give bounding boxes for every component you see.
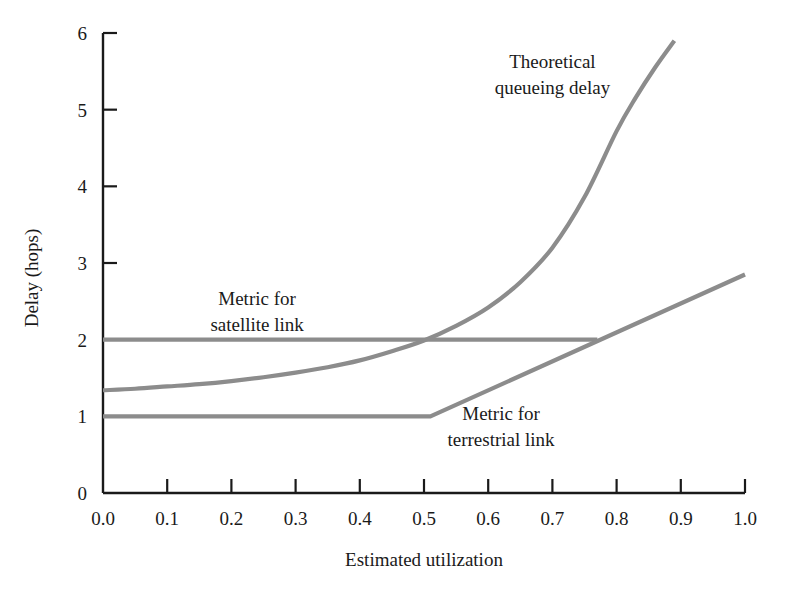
x-axis-tick-labels: 0.00.10.20.30.40.50.60.70.80.91.0 [91,508,757,529]
x-tick-label-0.3: 0.3 [284,508,308,529]
x-tick-label-0.5: 0.5 [412,508,436,529]
y-tick-label-6: 6 [78,23,88,44]
y-axis-ticks [103,33,117,416]
series-layer [103,41,745,417]
x-tick-label-0.7: 0.7 [541,508,565,529]
x-tick-label-0.1: 0.1 [155,508,179,529]
x-tick-label-0.9: 0.9 [669,508,693,529]
x-tick-label-0.8: 0.8 [605,508,629,529]
annotation-metric-for-satellite-link: Metric forsatellite link [210,288,304,335]
y-tick-label-5: 5 [78,100,88,121]
y-tick-label-4: 4 [78,176,88,197]
series-line-metric-for-terrestrial-link [103,275,745,417]
annotation-metric-for-terrestrial-link: Metric forterrestrial link [447,403,555,450]
annotation-line: terrestrial link [447,429,555,450]
x-tick-label-0.6: 0.6 [476,508,500,529]
x-tick-label-1.0: 1.0 [733,508,757,529]
y-tick-label-0: 0 [78,483,88,504]
annotation-line: Metric for [218,288,296,309]
annotation-theoretical-queueing-delay: Theoreticalqueueing delay [495,51,611,98]
annotation-line: Theoretical [509,51,596,72]
x-axis-title: Estimated utilization [345,549,503,570]
y-tick-label-2: 2 [78,330,88,351]
annotation-line: queueing delay [495,77,611,98]
y-axis-title: Delay (hops) [21,229,43,328]
x-tick-label-0.2: 0.2 [220,508,244,529]
y-tick-label-1: 1 [78,406,88,427]
axes [103,33,745,493]
y-tick-label-3: 3 [78,253,88,274]
x-tick-label-0.0: 0.0 [91,508,115,529]
y-axis-tick-labels: 0123456 [78,23,88,504]
annotation-line: satellite link [210,314,304,335]
x-tick-label-0.4: 0.4 [348,508,372,529]
chart-figure: 0123456 0.00.10.20.30.40.50.60.70.80.91.… [0,0,794,590]
x-axis-ticks [167,479,745,493]
delay-vs-utilization-chart: 0123456 0.00.10.20.30.40.50.60.70.80.91.… [0,0,794,590]
annotation-line: Metric for [462,403,540,424]
